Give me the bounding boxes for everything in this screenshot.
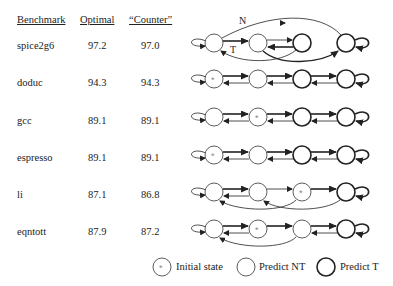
machine-spice2g6: N T [192, 15, 369, 62]
initial-state-marker: * [211, 75, 215, 85]
edge-label-t: T [230, 44, 236, 55]
svg-text:*: * [159, 263, 163, 273]
legend-initial-state-label: Initial state [176, 261, 223, 272]
machine-doduc: * [192, 70, 369, 88]
state-machine-diagrams: N T * * [0, 0, 393, 286]
legend-predict-nt-label: Predict NT [259, 261, 305, 272]
machine-espresso: * [192, 146, 369, 164]
initial-state-marker: * [211, 151, 215, 161]
machine-eqntott: * [192, 220, 369, 246]
legend-predict-t-icon [317, 258, 335, 276]
legend-predict-t-label: Predict T [340, 261, 379, 272]
initial-state-marker: * [255, 225, 259, 235]
edge-label-n: N [239, 15, 246, 26]
initial-state-marker: * [299, 188, 303, 198]
initial-state-marker: * [255, 113, 259, 123]
legend-predict-nt-icon [237, 258, 255, 276]
machine-gcc: * [192, 108, 369, 126]
machine-li: * [192, 183, 369, 209]
